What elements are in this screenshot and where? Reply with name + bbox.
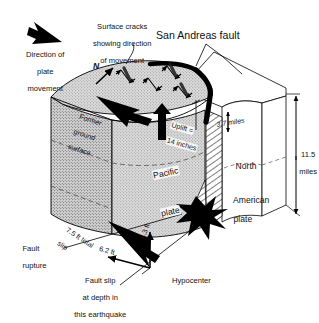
former-surface-line2: ground (72, 128, 96, 142)
block-depth-label: 11.5 miles (290, 142, 318, 185)
plate-motion-line2: plate (37, 67, 53, 76)
fault-slip-line2: at depth in (82, 293, 117, 302)
fault-slip-line1: Fault slip (85, 276, 115, 285)
former-surface-line1: Former (78, 113, 103, 128)
pacific-plate-line1: Pacific (151, 165, 180, 180)
fault-rupture-line2: rupture (22, 261, 46, 270)
plate-motion-line3: movement (28, 84, 63, 93)
total-slip-line2: slip (56, 239, 69, 252)
na-plate-line2: American (233, 195, 269, 205)
plate-motion-arrow-icon (26, 18, 66, 44)
north-american-plate-label-2: American plate (224, 186, 282, 234)
surface-cracks-line3: of movement (100, 56, 144, 65)
uplift-line2: 14 inches (165, 136, 198, 153)
uplift-line1: Uplift = (169, 121, 195, 135)
plate-motion-line1: Direction of (26, 50, 64, 59)
block-depth-line1: 11.5 (301, 150, 315, 159)
fault-rupture-line1: Fault (22, 244, 39, 253)
san-andreas-fault-label: San Andreas fault (156, 30, 284, 42)
plate-motion-label: Direction of plate movement (2, 42, 80, 102)
block-depth-line2: miles (299, 167, 317, 176)
na-plate-line3: plate (234, 214, 253, 224)
surface-cracks-line2: showing direction (93, 39, 152, 48)
former-surface-line3: surface (67, 143, 92, 158)
north-american-plate-label: North (226, 152, 280, 181)
hypocenter-label: Hypocenter (172, 277, 248, 286)
fault-slip-line3: this earthquake (74, 310, 126, 319)
surface-cracks-line1: Surface cracks (97, 22, 147, 31)
north-letter-label: N (90, 62, 102, 72)
fault-slip-caption: Fault slip at depth in this earthquake (44, 268, 148, 323)
pacific-plate-line2: plate (159, 204, 181, 218)
na-plate-line1: North (236, 161, 257, 171)
surface-cracks-label: Surface cracks showing direction of move… (72, 14, 164, 74)
